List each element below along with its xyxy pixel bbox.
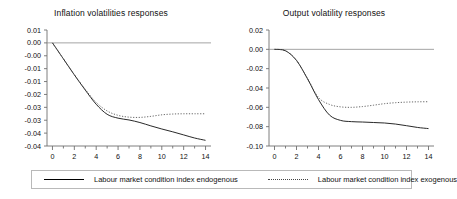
svg-text:-0.01: -0.01 bbox=[25, 77, 41, 86]
svg-text:0.02: 0.02 bbox=[249, 26, 263, 35]
svg-text:4: 4 bbox=[94, 152, 98, 161]
legend-label-exogenous: Labour market condition index exogenous bbox=[318, 175, 457, 184]
svg-text:0: 0 bbox=[273, 152, 277, 161]
legend-item-endogenous: Labour market condition index endogenous bbox=[44, 171, 238, 188]
svg-text:14: 14 bbox=[425, 152, 433, 161]
legend-line-solid-icon bbox=[44, 175, 84, 184]
svg-text:4: 4 bbox=[317, 152, 321, 161]
chart-panels: Inflation volatilities responses 0.010.0… bbox=[0, 0, 445, 162]
svg-text:8: 8 bbox=[138, 152, 142, 161]
chart-legend: Labour market condition index endogenous… bbox=[31, 170, 412, 189]
svg-text:-0.06: -0.06 bbox=[247, 103, 263, 112]
svg-text:-0.03: -0.03 bbox=[25, 116, 41, 125]
svg-text:-0.08: -0.08 bbox=[247, 122, 263, 131]
legend-item-exogenous: Labour market condition index exogenous bbox=[268, 171, 457, 188]
svg-text:8: 8 bbox=[361, 152, 365, 161]
svg-text:0.01: 0.01 bbox=[27, 26, 41, 35]
legend-row: Labour market condition index endogenous… bbox=[32, 171, 411, 188]
legend-line-dotted-icon bbox=[268, 175, 308, 184]
svg-text:-0.00: -0.00 bbox=[25, 51, 41, 60]
chart-panel-inflation: Inflation volatilities responses 0.010.0… bbox=[0, 0, 222, 162]
svg-text:0.00: 0.00 bbox=[27, 38, 41, 47]
svg-text:-0.10: -0.10 bbox=[247, 142, 263, 151]
svg-text:12: 12 bbox=[180, 152, 188, 161]
svg-text:14: 14 bbox=[202, 152, 210, 161]
plot-area-inflation: 0.010.00-0.00-0.01-0.01-0.02-0.03-0.03-0… bbox=[0, 0, 222, 162]
plot-area-output: 0.020.00-0.02-0.04-0.06-0.08-0.100246810… bbox=[223, 0, 445, 162]
svg-text:-0.04: -0.04 bbox=[25, 142, 41, 151]
svg-text:2: 2 bbox=[295, 152, 299, 161]
svg-text:-0.04: -0.04 bbox=[25, 129, 41, 138]
svg-text:6: 6 bbox=[339, 152, 343, 161]
svg-text:-0.02: -0.02 bbox=[247, 64, 263, 73]
svg-text:0: 0 bbox=[50, 152, 54, 161]
svg-text:-0.02: -0.02 bbox=[25, 90, 41, 99]
chart-panel-output: Output volatility responses 0.020.00-0.0… bbox=[223, 0, 445, 162]
svg-text:10: 10 bbox=[158, 152, 166, 161]
svg-text:-0.01: -0.01 bbox=[25, 64, 41, 73]
svg-text:0.00: 0.00 bbox=[249, 45, 263, 54]
svg-text:-0.04: -0.04 bbox=[247, 84, 263, 93]
svg-text:-0.03: -0.03 bbox=[25, 103, 41, 112]
svg-text:2: 2 bbox=[72, 152, 76, 161]
svg-text:12: 12 bbox=[403, 152, 411, 161]
svg-text:10: 10 bbox=[381, 152, 389, 161]
legend-label-endogenous: Labour market condition index endogenous bbox=[94, 175, 238, 184]
svg-text:6: 6 bbox=[116, 152, 120, 161]
